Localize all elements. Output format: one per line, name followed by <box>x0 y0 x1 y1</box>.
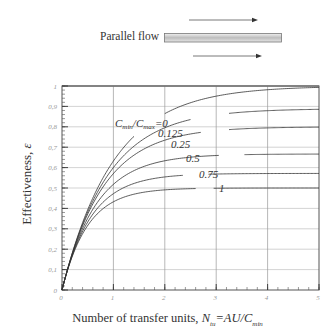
y-tick-label: 0,6 <box>48 164 57 172</box>
tube-bar <box>165 34 282 43</box>
y-tick-label: 0,7 <box>48 144 57 152</box>
y-tick-label: 0,9 <box>48 103 57 111</box>
y-tick-label: 0,8 <box>48 123 57 131</box>
parallel-flow-diagram <box>165 18 282 58</box>
curve-c-0-5 <box>244 154 319 155</box>
y-axis-title: Effectiveness, ε <box>19 129 35 239</box>
effectiveness-chart: 01234500,10,20,30,40,50,60,70,80,91Cmin/… <box>0 0 335 328</box>
curve-label-c0-25: 0.25 <box>171 138 191 150</box>
y-tick-label: 1 <box>54 83 58 91</box>
curve-label-c1: 1 <box>219 182 225 194</box>
curve-label-c0-5: 0.5 <box>186 152 200 164</box>
x-tick-label: 0 <box>59 294 63 302</box>
curve-label-c0-75: 0.75 <box>199 168 219 180</box>
curve-c-0-75 <box>208 173 319 174</box>
y-tick-label: 0,5 <box>48 185 57 193</box>
x-tick-label: 4 <box>265 294 269 302</box>
curve-c-0-25 <box>62 132 201 290</box>
x-tick-label: 5 <box>316 294 320 302</box>
x-axis-title: Number of transfer units, Ntu=AU/Cmin <box>0 311 335 328</box>
curve-c-0-125 <box>229 109 319 113</box>
y-tick-label: 0 <box>54 287 58 295</box>
top-flow-arrow-head-icon <box>252 18 258 22</box>
y-tick-label: 0,3 <box>48 225 57 233</box>
plot-area: 01234500,10,20,30,40,50,60,70,80,91Cmin/… <box>48 83 320 303</box>
y-tick-label: 0,1 <box>48 266 57 274</box>
x-tick-label: 1 <box>111 294 115 302</box>
y-tick-label: 0,4 <box>48 205 57 213</box>
bottom-flow-arrow-head-icon <box>256 54 262 58</box>
curve-c-1 <box>62 189 196 290</box>
y-tick-label: 0,2 <box>48 246 57 254</box>
curve-c-0-25 <box>229 127 319 129</box>
x-tick-label: 2 <box>162 294 166 302</box>
x-tick-label: 3 <box>212 294 217 302</box>
